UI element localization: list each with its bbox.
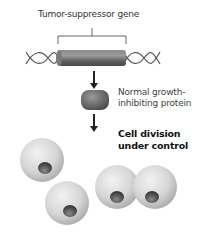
gene-cylinder (56, 50, 126, 66)
dna-helix-left (26, 52, 60, 64)
gene-label: Tumor-suppressor gene (38, 9, 139, 19)
protein-label-line2: inhibiting protein (118, 98, 191, 109)
arrow-down-icon (90, 71, 98, 89)
cell-icon (20, 138, 64, 182)
dividing-cell-icon (95, 165, 177, 209)
dna-helix-right (124, 52, 160, 64)
cell-icon (45, 181, 89, 225)
tumor-suppressor-diagram (0, 0, 200, 237)
result-label: Cell division under control (118, 128, 188, 152)
protein-label: Normal growth- inhibiting protein (118, 87, 191, 109)
protein-shape (81, 90, 109, 110)
protein-label-line1: Normal growth- (118, 87, 191, 98)
result-label-line2: under control (118, 140, 188, 152)
result-label-line1: Cell division (118, 128, 188, 140)
gene-bracket (58, 28, 126, 44)
arrow-down-icon (90, 114, 98, 132)
